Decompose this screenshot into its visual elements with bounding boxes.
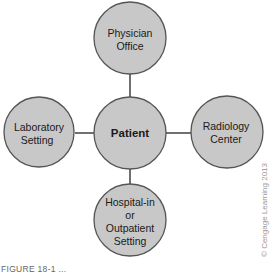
node-physician-office: Physician Office [94, 2, 166, 74]
node-label: Hospital-in [105, 196, 155, 208]
figure-caption: FIGURE 18-1 ... [1, 264, 66, 272]
node-label: Physician [108, 27, 153, 39]
node-label: Outpatient [106, 222, 155, 234]
node-label: Setting [21, 134, 54, 146]
node-label: Center [210, 133, 242, 145]
node-radiology-center: Radiology Center [191, 96, 263, 168]
node-label: Patient [111, 127, 150, 139]
copyright-notice: © Cengage Learning 2013 [258, 160, 270, 260]
node-laboratory-setting: Laboratory Setting [4, 97, 74, 167]
copyright-text: © Cengage Learning 2013 [260, 163, 269, 257]
node-label: Laboratory [14, 121, 65, 133]
node-label: or [125, 209, 135, 221]
node-label: Office [116, 40, 143, 52]
diagram-canvas: Physician Office Patient Laboratory Sett… [0, 0, 271, 272]
node-patient: Patient [94, 97, 166, 169]
node-label: Radiology [203, 120, 250, 132]
node-hospital-setting: Hospital-in or Outpatient Setting [94, 184, 166, 256]
node-label: Setting [114, 235, 147, 247]
